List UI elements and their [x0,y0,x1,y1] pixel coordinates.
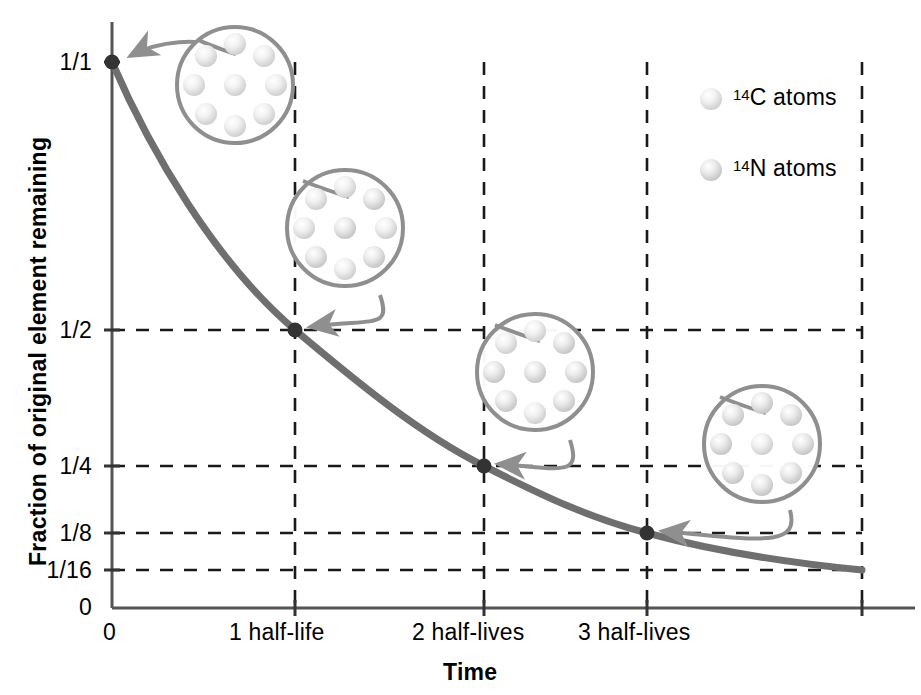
atom-c [253,103,275,125]
atom-c [195,45,217,67]
legend-carbon-superscript: 14 [733,86,750,103]
y-axis-title: Fraction of original element remaining [25,137,52,566]
x-tick-label-2-halflives: 2 half-lives [412,619,524,646]
atom-c [224,33,246,55]
y-tick-label-0: 0 [22,594,92,621]
legend-carbon-label: C atoms [750,84,837,110]
data-point-1-2 [288,323,303,338]
bubble-3-atoms [483,320,587,424]
atom-n [553,390,575,412]
atom-n [792,433,814,455]
callout-bubble-2 [287,170,403,327]
atom-c [195,103,217,125]
atom-c [265,74,287,96]
atom-c [375,217,397,239]
legend-nitrogen-label: N atoms [750,155,837,181]
legend-nitrogen-superscript: 14 [733,157,750,174]
x-tick-label-0: 0 [103,619,116,646]
x-tick-label-3-halflives: 3 half-lives [578,619,690,646]
x-tick-label-1-halflife: 1 half-life [229,619,325,646]
atom-c [524,320,546,342]
atom-n [334,217,356,239]
atom-n [524,361,546,383]
legend-item-nitrogen: 14N atoms [733,155,837,182]
atom-n [363,188,385,210]
atom-n [495,390,517,412]
x-axis-title: Time [443,659,497,686]
callout-bubble-1 [130,27,293,143]
callout-arrow-3 [498,440,573,468]
atom-c [524,402,546,424]
atom-c [224,74,246,96]
legend-sphere-icon-c [700,88,722,110]
atom-n [780,404,802,426]
atom-n [305,246,327,268]
atom-n [553,332,575,354]
atom-c [183,74,205,96]
legend-sphere-icon-n [700,159,722,181]
decay-chart-figure: 1/1 1/2 1/4 1/8 1/16 0 0 1 half-life 2 h… [0,0,921,695]
atom-n [363,246,385,268]
atom-n [565,361,587,383]
y-tick-label-1-1: 1/1 [22,49,92,76]
atom-n [722,404,744,426]
atom-n [722,462,744,484]
atom-n [710,433,732,455]
bubble-2-atoms [293,176,397,280]
y-tick-label-1-16: 1/16 [12,557,92,584]
atom-c [224,115,246,137]
data-point-1-8 [640,526,655,541]
callout-bubble-4 [662,386,820,538]
atom-c [751,433,773,455]
bubble-4-atoms [710,392,814,496]
legend-markers [700,88,722,181]
callout-arrow-2 [310,295,383,327]
atom-c [305,188,327,210]
callout-bubble-3 [477,314,593,468]
atom-c [495,332,517,354]
atom-n [751,392,773,414]
legend-item-carbon: 14C atoms [733,84,837,111]
atom-c [253,45,275,67]
atom-c [334,258,356,280]
atom-c [334,176,356,198]
data-point-1-4 [477,459,492,474]
atom-n [483,361,505,383]
bubble-1-atoms [183,33,287,137]
atom-n [751,474,773,496]
atom-c [293,217,315,239]
atom-n [780,462,802,484]
data-point-1-1 [105,55,120,70]
